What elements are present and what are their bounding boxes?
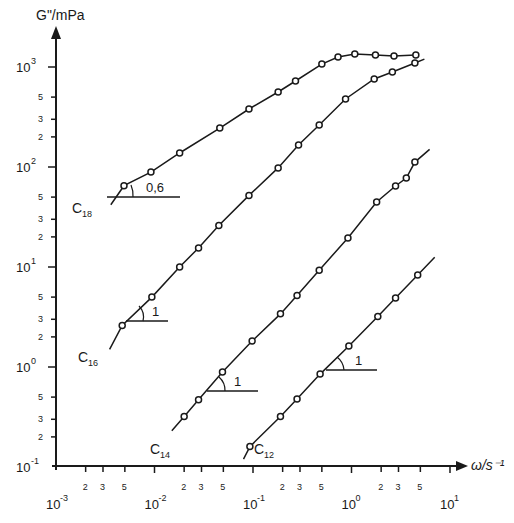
x-tick-label: 10 bbox=[440, 497, 454, 512]
data-point-marker bbox=[119, 323, 125, 329]
y-minor-label: 2 bbox=[38, 332, 43, 342]
data-point-marker bbox=[196, 245, 202, 251]
y-minor-label: 2 bbox=[38, 232, 43, 242]
data-point-marker bbox=[277, 413, 283, 419]
annotations: C180,6C161C141C121 bbox=[72, 180, 377, 460]
slope-angle-arc-icon bbox=[337, 357, 344, 370]
data-point-marker bbox=[391, 53, 397, 59]
curve-label-subscript: 16 bbox=[88, 358, 98, 368]
y-minor-label: 3 bbox=[38, 114, 43, 124]
x-minor-label: 3 bbox=[198, 482, 203, 492]
data-point-marker bbox=[412, 60, 418, 66]
data-point-marker bbox=[247, 444, 253, 450]
data-point-marker bbox=[343, 96, 349, 102]
data-point-marker bbox=[196, 397, 202, 403]
x-tick-exponent: 1 bbox=[454, 493, 459, 503]
data-point-marker bbox=[346, 343, 352, 349]
data-point-marker bbox=[275, 165, 281, 171]
data-point-marker bbox=[246, 192, 252, 198]
data-point-marker bbox=[275, 89, 281, 95]
curve-label-c18: C bbox=[72, 200, 82, 216]
data-point-marker bbox=[181, 413, 187, 419]
data-point-marker bbox=[217, 125, 223, 131]
data-point-marker bbox=[403, 175, 409, 181]
y-tick-label: 10 bbox=[16, 260, 30, 275]
data-point-marker bbox=[292, 78, 298, 84]
x-tick-label: 10 bbox=[46, 497, 60, 512]
x-axis-label: ω/s⁻¹ bbox=[471, 457, 505, 473]
data-point-marker bbox=[216, 223, 222, 229]
curve-label-subscript: 12 bbox=[264, 450, 274, 460]
y-axis-label: G"/mPa bbox=[36, 7, 85, 23]
y-tick-exponent: 1 bbox=[31, 256, 36, 266]
y-minor-label: 3 bbox=[38, 414, 43, 424]
curve-c14 bbox=[172, 149, 430, 430]
x-minor-label: 3 bbox=[395, 482, 400, 492]
y-tick-label: 10 bbox=[16, 360, 30, 375]
x-minor-label: 3 bbox=[297, 482, 302, 492]
data-point-marker bbox=[316, 267, 322, 273]
curve-label-subscript: 14 bbox=[160, 450, 170, 460]
data-point-marker bbox=[177, 264, 183, 270]
curve-label-subscript: 18 bbox=[82, 209, 92, 219]
x-tick-exponent: -2 bbox=[159, 493, 167, 503]
data-point-marker bbox=[389, 69, 395, 75]
x-minor-label: 2 bbox=[181, 482, 186, 492]
slope-value-label: 1 bbox=[234, 374, 241, 389]
x-minor-label: 2 bbox=[378, 482, 383, 492]
y-tick-exponent: 2 bbox=[31, 156, 36, 166]
y-minor-label: 5 bbox=[38, 92, 43, 102]
data-point-marker bbox=[412, 159, 418, 165]
x-minor-label: 2 bbox=[280, 482, 285, 492]
slope-value-label: 1 bbox=[152, 304, 159, 319]
y-minor-label: 2 bbox=[38, 132, 43, 142]
data-point-marker bbox=[393, 295, 399, 301]
curve-line bbox=[172, 149, 430, 430]
data-point-marker bbox=[372, 52, 378, 58]
data-point-marker bbox=[335, 54, 341, 60]
curve-label-c16: C bbox=[78, 349, 88, 365]
y-tick-exponent: 0 bbox=[31, 356, 36, 366]
y-tick-label: 10 bbox=[16, 460, 30, 475]
x-minor-label: 5 bbox=[122, 482, 127, 492]
x-tick-label: 10 bbox=[342, 497, 356, 512]
x-tick-exponent: -1 bbox=[257, 493, 265, 503]
data-point-marker bbox=[316, 122, 322, 128]
data-point-marker bbox=[294, 396, 300, 402]
y-minor-label: 5 bbox=[38, 292, 43, 302]
data-point-marker bbox=[415, 272, 421, 278]
x-axis-arrow-icon bbox=[456, 461, 468, 471]
curve-label-c12: C bbox=[254, 441, 264, 457]
data-point-marker bbox=[352, 51, 358, 57]
data-point-marker bbox=[375, 313, 381, 319]
y-tick-exponent: -1 bbox=[31, 456, 39, 466]
x-minor-label: 2 bbox=[83, 482, 88, 492]
data-point-marker bbox=[177, 150, 183, 156]
slope-angle-arc-icon bbox=[131, 185, 133, 197]
curve-label-c14: C bbox=[150, 441, 160, 457]
y-minor-label: 3 bbox=[38, 314, 43, 324]
data-point-marker bbox=[413, 52, 419, 58]
data-point-marker bbox=[374, 199, 380, 205]
data-point-marker bbox=[317, 371, 323, 377]
y-minor-label: 2 bbox=[38, 432, 43, 442]
x-minor-label: 5 bbox=[319, 482, 324, 492]
y-minor-label: 5 bbox=[38, 192, 43, 202]
x-minor-label: 3 bbox=[100, 482, 105, 492]
x-minor-label: 5 bbox=[220, 482, 225, 492]
data-point-marker bbox=[345, 235, 351, 241]
y-tick-label: 10 bbox=[16, 160, 30, 175]
x-minor-label: 5 bbox=[417, 482, 422, 492]
y-tick-label: 10 bbox=[16, 60, 30, 75]
x-tick-exponent: -3 bbox=[60, 493, 68, 503]
data-point-marker bbox=[219, 369, 225, 375]
y-tick-exponent: 3 bbox=[31, 56, 36, 66]
x-tick-exponent: 0 bbox=[356, 493, 361, 503]
data-point-marker bbox=[319, 61, 325, 67]
data-point-marker bbox=[246, 106, 252, 112]
curves bbox=[110, 51, 435, 459]
axes: 10-323510-223510-123510023510110-1235100… bbox=[16, 26, 468, 512]
rheology-loss-modulus-chart: 10-323510-223510-123510023510110-1235100… bbox=[0, 0, 514, 523]
y-minor-label: 5 bbox=[38, 392, 43, 402]
data-point-marker bbox=[249, 338, 255, 344]
